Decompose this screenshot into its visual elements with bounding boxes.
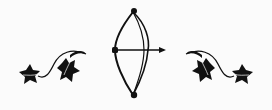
ornament-svg (0, 0, 272, 110)
ornament-divider (0, 0, 272, 110)
left-ivy-vine-icon (19, 51, 86, 84)
bow-arrow-icon (112, 8, 166, 98)
right-ivy-vine-icon (186, 51, 253, 84)
